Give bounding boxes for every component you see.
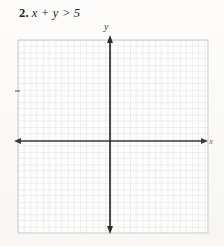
coordinate-grid-graph	[0, 0, 224, 246]
x-axis-left-arrow	[14, 138, 21, 144]
scan-artifact-mark	[15, 90, 20, 92]
grid-lines	[18, 40, 208, 233]
y-axis-up-arrow	[107, 35, 113, 43]
x-axis-label: x	[209, 136, 213, 146]
worksheet-page: 2.x + y > 5 y x	[0, 0, 224, 246]
y-axis-label: y	[104, 21, 108, 32]
